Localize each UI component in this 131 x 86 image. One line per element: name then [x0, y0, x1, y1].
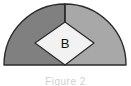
- region-label-B: B: [61, 36, 70, 51]
- figure-caption: Figure 2: [0, 77, 131, 86]
- sector-diagram: B: [0, 0, 131, 86]
- figure-container: B Figure 2: [0, 0, 131, 86]
